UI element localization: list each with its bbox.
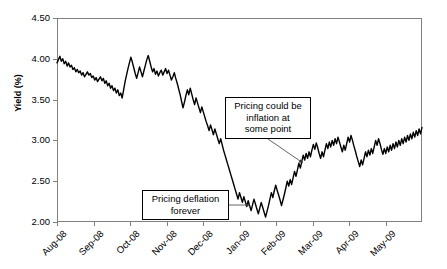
annotation-line: forever [143,205,228,217]
leader-inflation [268,139,303,163]
yield-chart: Yield (%) 4.504.003.503.002.502.00 Aug-0… [0,0,447,269]
series-layer [0,0,447,269]
annotation-line: Pricing could be [226,100,310,112]
annotation-line: some point [226,123,310,135]
annotation-inflation-note: Pricing could beinflation atsome point [225,97,311,139]
annotation-line: Pricing deflation [143,193,228,205]
annotation-line: inflation at [226,112,310,124]
annotation-deflation-note: Pricing deflationforever [142,190,229,220]
